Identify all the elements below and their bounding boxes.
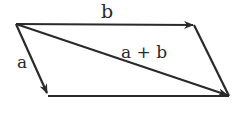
parallelogram-svg [0, 0, 236, 114]
vector-diagram: b a a + b [0, 0, 236, 114]
label-b: b [101, 2, 113, 21]
label-a-plus-b: a + b [121, 44, 167, 61]
label-a: a [17, 54, 27, 71]
vector-b-arrow [16, 24, 193, 25]
